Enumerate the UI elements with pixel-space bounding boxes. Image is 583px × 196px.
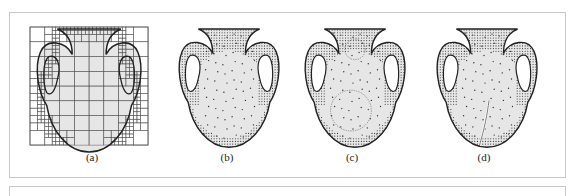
figure-frame: (a) (b) (c) (d) (9, 12, 566, 178)
next-figure-frame (9, 186, 566, 196)
caption-d: (d) (464, 151, 504, 163)
